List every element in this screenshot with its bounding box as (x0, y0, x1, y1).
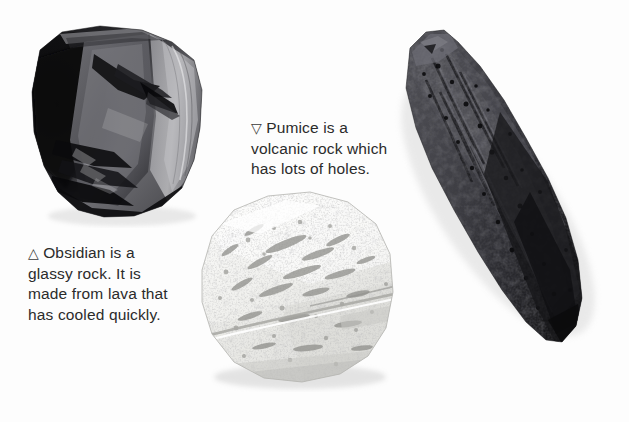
pumice-rock-photo (190, 188, 405, 396)
pumice-caption-text: Pumice is a volcanic rock which has lots… (251, 119, 387, 177)
pumice-caption: ▽Pumice is a volcanic rock which has lot… (251, 118, 426, 180)
obsidian-caption-text: Obsidian is a glassy rock. It is made fr… (28, 244, 168, 323)
obsidian-rock-photo (22, 20, 217, 225)
scoria-lava-rock-photo (380, 22, 595, 362)
obsidian-caption: △Obsidian is a glassy rock. It is made f… (28, 243, 213, 325)
triangle-up-outline-icon: △ (28, 245, 39, 261)
triangle-down-outline-icon: ▽ (251, 120, 262, 136)
figure-page: △Obsidian is a glassy rock. It is made f… (0, 0, 629, 422)
